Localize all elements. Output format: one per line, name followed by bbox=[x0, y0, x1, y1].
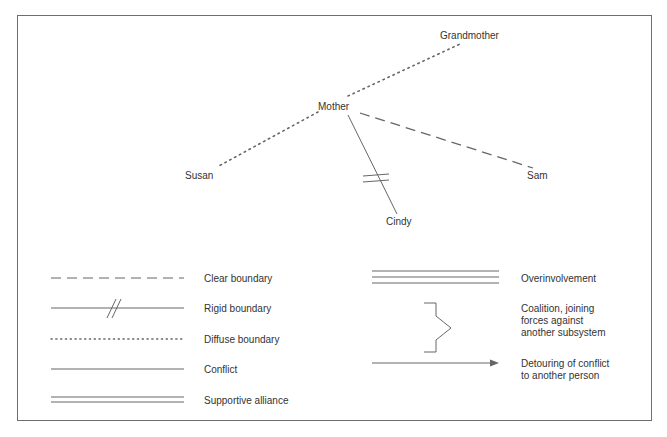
edge-mother-cindy bbox=[348, 115, 397, 214]
legend-label-coalition-line-3: another subsystem bbox=[521, 327, 606, 339]
node-mother: Mother bbox=[318, 101, 349, 113]
legend-symbol-supportive-alliance bbox=[51, 397, 184, 402]
node-cindy: Cindy bbox=[386, 216, 412, 228]
edge-mother-grandmother bbox=[348, 44, 460, 96]
legend-label-coalition: Coalition, joining forces against anothe… bbox=[521, 303, 606, 339]
legend-label-overinvolvement: Overinvolvement bbox=[521, 273, 596, 285]
edge-mother-susan bbox=[217, 112, 318, 167]
legend-label-detouring-line-1: Detouring of conflict bbox=[521, 358, 609, 370]
legend-symbol-coalition bbox=[424, 303, 451, 352]
node-sam: Sam bbox=[527, 170, 548, 182]
node-grandmother: Grandmother bbox=[440, 30, 499, 42]
legend-label-detouring-line-2: to another person bbox=[521, 370, 609, 382]
legend-label-detouring: Detouring of conflict to another person bbox=[521, 358, 609, 382]
legend-label-clear-boundary: Clear boundary bbox=[204, 273, 272, 285]
edge-mother-sam bbox=[360, 113, 533, 168]
legend-symbol-rigid-boundary bbox=[51, 299, 184, 318]
legend-label-coalition-line-1: Coalition, joining bbox=[521, 303, 606, 315]
rigid-boundary-mark bbox=[363, 174, 389, 176]
legend-label-rigid-boundary: Rigid boundary bbox=[204, 303, 271, 315]
legend-symbol-overinvolvement bbox=[372, 271, 499, 283]
node-susan: Susan bbox=[185, 170, 213, 182]
legend-label-conflict: Conflict bbox=[204, 364, 237, 376]
legend-symbol-detouring-arrow bbox=[372, 360, 499, 367]
legend-label-diffuse-boundary: Diffuse boundary bbox=[204, 334, 279, 346]
legend-label-supportive-alliance: Supportive alliance bbox=[204, 395, 289, 407]
rigid-boundary-mark bbox=[363, 180, 389, 182]
legend-label-coalition-line-2: forces against bbox=[521, 315, 606, 327]
